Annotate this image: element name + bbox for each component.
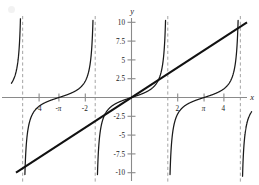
tangent-branch (243, 112, 252, 177)
y-tick-label: -5 (119, 132, 125, 140)
y-tick-label: 2.5 (116, 75, 125, 83)
x-tick-label: -π (55, 105, 61, 113)
y-tick-label: -7.5 (114, 151, 126, 159)
plot-canvas: -4-π-22π4107.552.5-2.5-5-7.5-10 xy (0, 0, 259, 185)
y-tick-label: 5 (121, 57, 125, 65)
x-tick-label: π (202, 105, 206, 113)
y-tick-label: -2.5 (114, 113, 126, 121)
x-tick-label: -4 (36, 105, 42, 113)
x-tick-label: 2 (175, 105, 179, 113)
y-tick-label: -10 (115, 169, 125, 177)
x-tick-label: -2 (82, 105, 88, 113)
tangent-branch (11, 19, 20, 84)
y-axis-label: y (129, 7, 134, 16)
x-tick-label: 4 (222, 105, 226, 113)
tangent-plot-figure: -4-π-22π4107.552.5-2.5-5-7.5-10 xy (0, 0, 259, 185)
y-tick-label: 10 (118, 19, 126, 27)
x-axis-label: x (249, 93, 254, 102)
y-tick-label: 7.5 (116, 38, 125, 46)
